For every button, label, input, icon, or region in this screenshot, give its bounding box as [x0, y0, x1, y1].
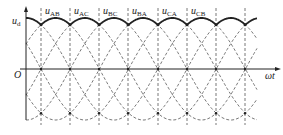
- segment-label-ac: uAC: [74, 5, 89, 18]
- figure-caption: [80, 127, 280, 135]
- lower-cross-point: [98, 112, 100, 114]
- lower-cross-point: [215, 112, 217, 114]
- envelope-curve: [26, 18, 257, 25]
- y-axis-label: ud: [12, 15, 21, 28]
- segment-label-ca: uCA: [162, 5, 177, 18]
- commutation-point: [157, 23, 160, 26]
- origin-label: O: [14, 69, 21, 80]
- output-voltage-envelope: [26, 18, 257, 114]
- commutation-point: [127, 23, 130, 26]
- segment-label-ba: uBA: [132, 5, 147, 18]
- commutation-point: [69, 23, 72, 26]
- lower-cross-point: [244, 112, 246, 114]
- lower-cross-point: [69, 112, 71, 114]
- commutation-point: [244, 23, 247, 26]
- rectifier-waveform-figure: ud O ωt uABuACuBCuBAuCAuCB: [0, 0, 283, 135]
- x-axis-arrow-icon: [275, 67, 281, 71]
- segment-label-cb: uCB: [191, 5, 206, 18]
- lower-cross-point: [127, 112, 129, 114]
- y-axis-arrow-icon: [24, 6, 28, 12]
- commutation-point: [186, 23, 189, 26]
- segment-labels: uABuACuBCuBAuCAuCB: [45, 5, 206, 18]
- lower-cross-point: [186, 112, 188, 114]
- segment-label-bc: uBC: [103, 5, 118, 18]
- x-axis-label: ωt: [265, 70, 275, 81]
- segment-label-ab: uAB: [45, 5, 60, 18]
- commutation-point: [215, 23, 218, 26]
- commutation-point: [40, 23, 43, 26]
- lower-cross-point: [40, 112, 42, 114]
- commutation-point: [98, 23, 101, 26]
- lower-cross-point: [157, 112, 159, 114]
